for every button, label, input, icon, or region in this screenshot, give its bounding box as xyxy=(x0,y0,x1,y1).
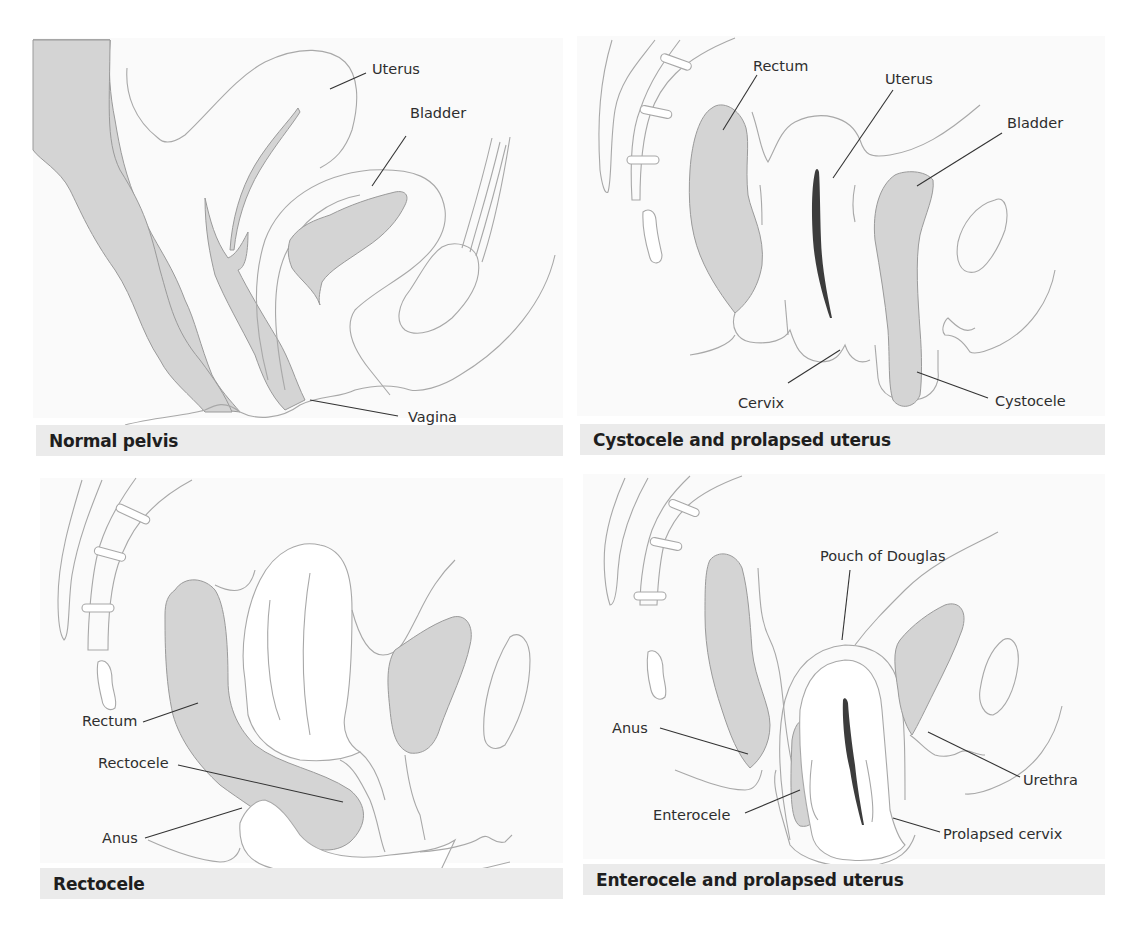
label-rectum: Rectum xyxy=(753,59,808,74)
label-bladder: Bladder xyxy=(1007,116,1063,131)
caption-text: Enterocele and prolapsed uterus xyxy=(596,870,904,890)
label-urethra: Urethra xyxy=(1023,773,1078,788)
caption-rectocele: Rectocele xyxy=(40,868,563,899)
caption-text: Rectocele xyxy=(53,874,145,894)
caption-enterocele: Enterocele and prolapsed uterus xyxy=(583,864,1105,895)
figure-artwork xyxy=(0,0,1129,931)
caption-text: Normal pelvis xyxy=(49,431,178,451)
caption-normal-pelvis: Normal pelvis xyxy=(36,425,563,456)
label-enterocele: Enterocele xyxy=(653,808,730,823)
label-cervix: Cervix xyxy=(738,396,784,411)
caption-cystocele: Cystocele and prolapsed uterus xyxy=(580,424,1105,455)
label-vagina: Vagina xyxy=(408,410,457,425)
label-pouch-of-douglas: Pouch of Douglas xyxy=(820,549,946,564)
label-anus: Anus xyxy=(612,721,648,736)
label-uterus: Uterus xyxy=(885,72,933,87)
caption-text: Cystocele and prolapsed uterus xyxy=(593,430,891,450)
label-prolapsed-cervix: Prolapsed cervix xyxy=(943,827,1062,842)
label-rectum: Rectum xyxy=(82,714,137,729)
label-anus: Anus xyxy=(102,831,138,846)
label-bladder: Bladder xyxy=(410,106,466,121)
label-uterus: Uterus xyxy=(372,62,420,77)
label-rectocele: Rectocele xyxy=(98,756,169,771)
label-cystocele: Cystocele xyxy=(995,394,1066,409)
